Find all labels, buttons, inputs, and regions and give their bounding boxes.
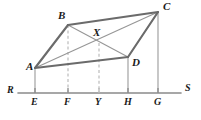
vertex-label-C: C <box>163 1 170 12</box>
vertex-label-A: A <box>26 61 33 72</box>
geometry-figure: A B C D X R S E F Y H G <box>0 0 201 120</box>
foot-label-Y: Y <box>95 97 101 107</box>
foot-label-G: G <box>154 97 161 107</box>
edge-DA <box>35 57 128 68</box>
vertex-label-B: B <box>58 10 65 21</box>
vertex-label-D: D <box>132 57 140 68</box>
vertex-label-X: X <box>93 27 100 38</box>
baseline-label-S: S <box>185 83 191 93</box>
foot-label-H: H <box>124 97 132 107</box>
baseline-label-R: R <box>7 85 14 95</box>
foot-label-F: F <box>64 97 71 107</box>
foot-label-E: E <box>31 97 38 107</box>
edge-AB <box>35 25 68 68</box>
